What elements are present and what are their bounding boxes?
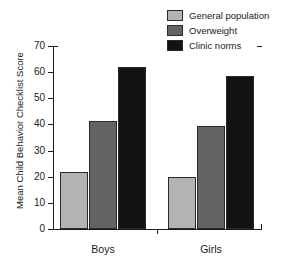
- y-axis-tick-label: 50: [34, 91, 45, 104]
- legend-label-overweight: Overweight: [189, 25, 237, 36]
- plot-area: 010203040506070BoysGirls: [53, 46, 262, 229]
- legend-swatch-general-population: [167, 10, 183, 21]
- x-axis-right-top-cap: [257, 46, 262, 47]
- y-axis-tick-label: 0: [39, 222, 45, 235]
- y-axis-top-cap: [53, 46, 58, 47]
- bar: [168, 177, 196, 229]
- x-axis-right-end-cap: [261, 224, 262, 230]
- legend-item-overweight: Overweight: [167, 24, 269, 37]
- y-axis-tick: 0: [48, 229, 53, 230]
- y-axis-tick-label: 70: [34, 39, 45, 52]
- y-axis-tick-label: 40: [34, 117, 45, 130]
- y-axis-line: [53, 46, 54, 229]
- y-axis-tick-label: 60: [34, 65, 45, 78]
- y-axis-tick-label: 20: [34, 170, 45, 183]
- bar-chart: General population Overweight Clinic nor…: [0, 0, 284, 265]
- x-axis-category-label: Girls: [168, 242, 254, 256]
- bar: [226, 76, 254, 229]
- x-axis-category-label: Boys: [60, 242, 146, 256]
- legend-label-general-population: General population: [189, 10, 269, 21]
- y-axis-tick: 10: [48, 203, 53, 204]
- bar: [89, 121, 117, 229]
- y-axis-tick-label: 10: [34, 196, 45, 209]
- y-axis-tick-label: 30: [34, 144, 45, 157]
- legend-item-general-population: General population: [167, 9, 269, 22]
- y-axis-tick: 20: [48, 177, 53, 178]
- y-axis-tick: 60: [48, 72, 53, 73]
- y-axis-title: Mean Child Behavior Checklist Score: [13, 39, 27, 222]
- y-axis-tick: 40: [48, 124, 53, 125]
- bar: [197, 126, 225, 229]
- y-axis-tick: 70: [48, 46, 53, 47]
- y-axis-tick: 50: [48, 98, 53, 99]
- legend-swatch-overweight: [167, 25, 183, 36]
- y-axis-tick: 30: [48, 151, 53, 152]
- bar: [118, 67, 146, 229]
- bar: [60, 172, 88, 230]
- x-axis-mid-tick: [157, 229, 158, 234]
